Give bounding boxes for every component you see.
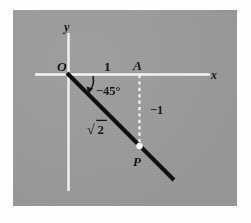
x-axis-label: x: [210, 68, 217, 82]
point-p-label: P: [133, 154, 142, 169]
point-p-dot: [136, 143, 142, 149]
unit-x-label: 1: [104, 59, 111, 74]
figure-root: O 1 A x y −45° −1 √ 2 P: [0, 0, 251, 223]
point-a-label: A: [132, 58, 142, 73]
angle-label: −45°: [96, 84, 121, 98]
coordinate-diagram: O 1 A x y −45° −1 √ 2 P: [0, 0, 251, 223]
y-axis-label: y: [62, 20, 70, 34]
radicand-label: 2: [98, 122, 105, 137]
drop-length-label: −1: [150, 103, 163, 117]
hypotenuse-label: √ 2: [87, 120, 107, 137]
origin-label: O: [57, 59, 67, 74]
radical-symbol: √: [87, 122, 95, 137]
